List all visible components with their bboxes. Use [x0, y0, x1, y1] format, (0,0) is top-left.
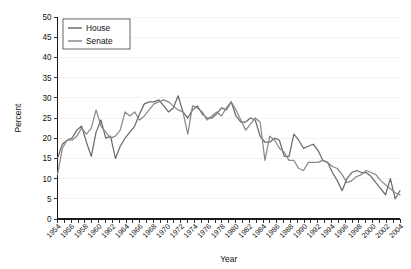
y-tick-label: 10: [42, 175, 52, 184]
x-axis-ticks: [58, 219, 401, 223]
y-tick-label: 20: [42, 134, 52, 143]
y-tick-label: 35: [42, 74, 52, 83]
series-line-senate: [58, 100, 401, 195]
y-tick-label: 0: [47, 215, 52, 224]
legend-label-senate: Senate: [86, 36, 113, 46]
y-tick-label: 15: [42, 154, 52, 163]
chart-legend: House Senate: [63, 19, 130, 49]
data-series: [58, 96, 401, 199]
y-tick-label: 40: [42, 53, 52, 62]
y-axis-tick-labels: 05101520253035404550: [42, 13, 52, 224]
legend-label-house: House: [86, 23, 111, 33]
y-tick-label: 25: [42, 114, 52, 123]
y-tick-label: 30: [42, 94, 52, 103]
x-axis-title: Year: [220, 254, 237, 264]
line-chart: 05101520253035404550 1954195619581960196…: [0, 0, 411, 269]
y-tick-label: 50: [42, 13, 52, 22]
y-tick-label: 5: [47, 195, 52, 204]
chart-container: 05101520253035404550 1954195619581960196…: [0, 0, 411, 269]
series-line-house: [58, 96, 401, 199]
y-tick-label: 45: [42, 33, 52, 42]
x-axis-tick-labels: 1954195619581960196219641966196819701972…: [45, 222, 405, 240]
x-tick-label: 2004: [387, 222, 405, 240]
y-axis-title: Percent: [13, 103, 23, 133]
